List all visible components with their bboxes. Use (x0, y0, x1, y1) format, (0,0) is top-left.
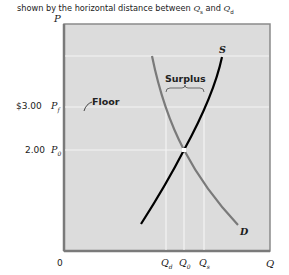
q0-tick-label: Q0 (179, 257, 191, 270)
equilibrium-point (182, 148, 186, 152)
floor-annotation: Floor (92, 96, 119, 107)
qd-symbol: Q (161, 257, 169, 268)
surplus-annotation: Surplus (165, 73, 206, 84)
equilibrium-price-value: 2.00 (25, 145, 45, 155)
x-axis-label: Q (266, 258, 274, 269)
price-floor-value: $3.00 (16, 101, 42, 111)
qs-sub: s (207, 263, 210, 270)
qd-sub: d (169, 263, 173, 270)
y-axis-label: P (54, 13, 61, 24)
q0-symbol: Q (179, 257, 187, 268)
qd-tick-label: Qd (161, 257, 173, 270)
supply-label: S (219, 44, 226, 55)
pf-sub: f (57, 106, 59, 113)
origin-label: 0 (57, 258, 63, 268)
price-floor-symbol: Pf (51, 100, 60, 113)
plot-area (64, 24, 270, 251)
p0-sub: 0 (57, 150, 61, 157)
qs-symbol: Q (199, 257, 207, 268)
demand-label: D (240, 226, 248, 237)
qs-tick-label: Qs (199, 257, 210, 270)
q0-sub: 0 (187, 263, 191, 270)
equilibrium-price-symbol: P0 (51, 144, 61, 157)
